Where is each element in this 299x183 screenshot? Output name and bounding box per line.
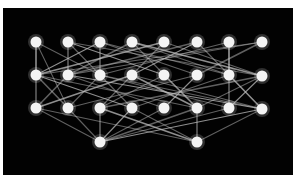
graph-node-c1 [31,103,42,114]
graph-node-b4 [127,70,138,81]
graph-node-b1 [31,70,42,81]
graph-node-c4 [127,103,138,114]
graph-node-a4 [127,37,138,48]
graph-node-b7 [224,70,235,81]
graph-node-c8 [257,104,268,115]
graph-edges [36,42,262,142]
graph-node-c6 [192,103,203,114]
graph-node-b8 [257,71,268,82]
graph-node-a6 [192,37,203,48]
graph-node-b3 [95,70,106,81]
graph-node-b5 [159,70,170,81]
graph-node-a7 [224,37,235,48]
graph-node-a1 [31,37,42,48]
graph-node-b2 [63,70,74,81]
graph-node-a5 [159,37,170,48]
graph-node-c5 [159,103,170,114]
graph-node-a8 [257,37,268,48]
graph-node-c2 [63,103,74,114]
graph-node-d2 [192,137,203,148]
graph-node-a2 [63,37,74,48]
network-graph [0,0,299,183]
graph-node-a3 [95,37,106,48]
graph-nodes [28,34,270,150]
graph-node-d1 [95,137,106,148]
graph-node-c7 [224,103,235,114]
graph-node-b6 [192,70,203,81]
graph-node-c3 [95,103,106,114]
